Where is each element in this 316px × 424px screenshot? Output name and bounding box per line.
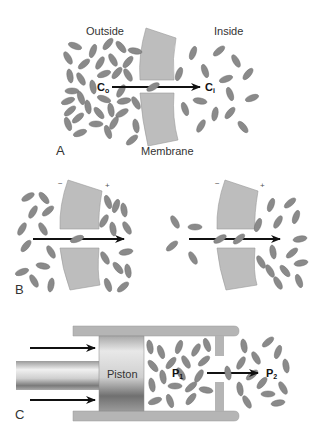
molecules-inside xyxy=(174,44,260,134)
panel-a-letter: A xyxy=(56,143,65,158)
molecule-in-channel xyxy=(69,234,84,244)
piston-rod xyxy=(16,361,100,390)
molecule-in-nozzle xyxy=(224,366,232,381)
p2-label: P2 xyxy=(266,367,277,380)
membrane-upper xyxy=(140,28,176,80)
minus-sign: − xyxy=(58,179,63,188)
panel-b-right: − + xyxy=(165,179,309,291)
cylinder-bottom-wall xyxy=(73,411,239,421)
molecule-in-channel xyxy=(212,233,227,245)
nozzle-bottom xyxy=(215,382,224,411)
panel-b-letter: B xyxy=(15,282,24,297)
membrane-b-right-upper xyxy=(217,180,258,229)
molecule-in-channel xyxy=(145,81,160,93)
c-outside-label: Co xyxy=(97,81,109,94)
diffusion-diagram: Outside Inside xyxy=(0,0,316,424)
plus-sign: + xyxy=(260,181,265,190)
plus-sign: + xyxy=(105,181,110,190)
membrane-b-right-lower xyxy=(217,248,257,290)
panel-a: Outside Inside xyxy=(56,25,260,158)
outside-label: Outside xyxy=(86,25,124,37)
panel-c-letter: C xyxy=(15,407,24,422)
membrane-lower xyxy=(140,93,178,146)
p1-label: P1 xyxy=(172,367,183,380)
c-inside-label: Ci xyxy=(205,81,215,94)
panel-c: Piston xyxy=(15,326,290,422)
membrane-label: Membrane xyxy=(141,145,194,157)
membrane-b-left-upper xyxy=(60,180,102,229)
piston-label: Piston xyxy=(107,368,138,380)
membrane-b-left-lower xyxy=(60,248,100,290)
minus-sign: − xyxy=(215,179,220,188)
panel-b-left: − + xyxy=(14,179,133,297)
cylinder-top-wall xyxy=(73,326,239,336)
inside-label: Inside xyxy=(214,25,243,37)
nozzle-top xyxy=(215,336,224,356)
